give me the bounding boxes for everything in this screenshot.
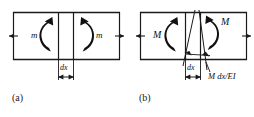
rotation-label-b: M dx/EI: [208, 72, 236, 81]
figure-root: m m dx (a): [0, 0, 254, 117]
moment-label-left-b: M: [153, 30, 161, 40]
panel-caption-b: (b): [139, 93, 151, 103]
right-end-arrow-a: [119, 33, 124, 38]
left-end-arrow-b: [136, 33, 141, 38]
moment-arrow-left-a: [39, 17, 53, 52]
moment-label-left-a: m: [31, 31, 38, 40]
panel-a: m m dx (a): [0, 0, 127, 117]
left-end-arrow-a: [9, 33, 14, 38]
dx-dimension-label-a: dx: [60, 64, 68, 72]
moment-arrow-right-a: [80, 17, 94, 52]
moment-arrow-left-b: [164, 17, 178, 52]
moment-label-right-b: M: [221, 17, 229, 27]
moment-arrow-right-b: [205, 16, 219, 51]
panel-b: M M dx M dx/EI (b): [127, 0, 254, 117]
moment-label-right-a: m: [96, 31, 103, 40]
curvature-line-left-b: [183, 10, 195, 66]
panel-caption-a: (a): [12, 93, 23, 103]
right-end-arrow-b: [246, 33, 251, 38]
dx-dimension-label-b: dx: [187, 64, 195, 72]
